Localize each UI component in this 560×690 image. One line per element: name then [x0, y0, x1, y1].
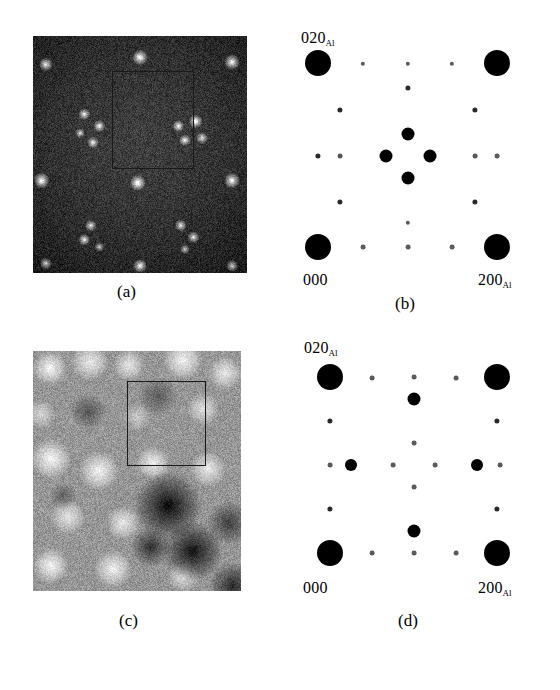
caption-panel-a: (a)	[117, 283, 136, 300]
diffraction-spot	[472, 199, 477, 204]
diffraction-spot	[484, 50, 510, 76]
diffraction-spot	[412, 551, 417, 556]
diffraction-spot	[408, 393, 421, 406]
diffraction-spot	[494, 506, 499, 511]
diffraction-spot	[328, 463, 333, 468]
diffraction-spot	[405, 85, 410, 90]
caption-panel-d: (d)	[398, 612, 418, 629]
diffraction-spot	[412, 375, 417, 380]
diffraction-spot	[472, 107, 477, 112]
diffraction-spot	[494, 418, 499, 423]
diffraction-index-label: 200Al	[478, 272, 512, 288]
diffraction-spot	[361, 62, 365, 66]
diffraction-spot	[450, 62, 454, 66]
diffraction-spot	[327, 418, 332, 423]
diffraction-index-label: 000	[303, 580, 328, 596]
figure-panel-grid: (a) 020Al000200Al (b) (c) 020Al000200Al …	[0, 0, 560, 690]
diffraction-spot	[498, 463, 503, 468]
diffraction-panel-d: 020Al000200Al	[288, 345, 520, 577]
diffraction-spot	[317, 364, 343, 390]
diffraction-spot	[361, 245, 366, 250]
selection-box-c	[127, 381, 206, 466]
diffraction-spot	[327, 506, 332, 511]
caption-panel-b: (b)	[395, 295, 415, 312]
diffraction-spot	[484, 364, 510, 390]
diffraction-spot	[450, 245, 455, 250]
diffraction-spot	[454, 551, 459, 556]
diffraction-index-label: 020Al	[301, 30, 335, 46]
diffraction-spot	[471, 459, 483, 471]
diffraction-spot	[370, 376, 375, 381]
diffraction-spot	[337, 107, 342, 112]
diffraction-index-label: 000	[303, 272, 328, 288]
diffraction-spot	[408, 525, 421, 538]
diffraction-spot	[424, 150, 437, 163]
diffraction-spot	[380, 150, 393, 163]
diffraction-spot	[402, 128, 415, 141]
diffraction-spot	[406, 62, 410, 66]
diffraction-index-label: 200Al	[478, 580, 512, 596]
diffraction-spot	[473, 154, 478, 159]
diffraction-spot	[484, 540, 510, 566]
diffraction-spot	[337, 199, 342, 204]
diffraction-spot	[345, 459, 357, 471]
diffraction-spot	[406, 245, 411, 250]
diffraction-spot	[338, 154, 343, 159]
diffraction-spot	[454, 376, 459, 381]
diffraction-spot	[412, 485, 417, 490]
diffraction-spot	[484, 234, 510, 260]
diffraction-spot	[315, 153, 320, 158]
diffraction-panel-b: 020Al000200Al	[288, 38, 520, 270]
diffraction-spot	[305, 234, 331, 260]
diffraction-spot	[412, 441, 417, 446]
caption-panel-c: (c)	[119, 612, 138, 629]
diffraction-spot	[391, 463, 396, 468]
diffraction-spot	[317, 540, 343, 566]
diffraction-spot	[495, 154, 500, 159]
diffraction-spot	[402, 172, 415, 185]
micrograph-panel-a	[33, 36, 247, 273]
diffraction-index-label: 020Al	[304, 340, 338, 356]
selection-box-a	[112, 71, 194, 169]
diffraction-spot	[406, 221, 410, 225]
diffraction-spot	[305, 50, 331, 76]
diffraction-spot	[370, 551, 375, 556]
micrograph-panel-c	[33, 351, 241, 591]
diffraction-spot	[433, 463, 438, 468]
